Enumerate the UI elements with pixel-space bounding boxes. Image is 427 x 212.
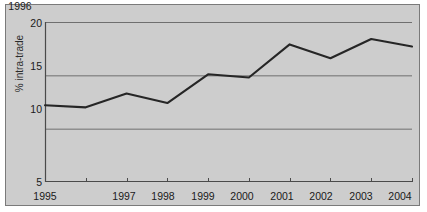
data-series-line [45, 39, 412, 107]
chart-container: % intra-trade 20 15 10 5 1995 1996 1997 … [0, 0, 427, 212]
plot-area [0, 0, 427, 212]
